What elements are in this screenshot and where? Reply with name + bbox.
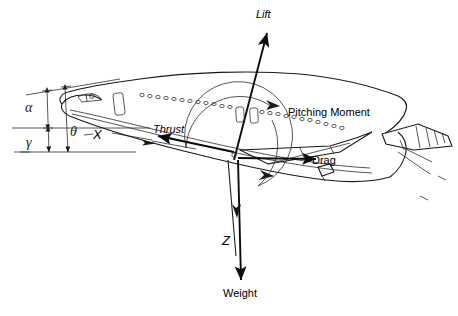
- fin-trailing-line-2: [398, 152, 430, 174]
- gamma-upper-arrowhead: [46, 126, 51, 132]
- x-axis-line: [112, 133, 152, 140]
- aft-door: [236, 107, 245, 122]
- lift-label: Lift: [256, 8, 272, 20]
- angle-dimension-lines: [42, 84, 71, 153]
- horizontal-stabilizer: [382, 124, 452, 200]
- drag-label: Drag: [312, 154, 336, 166]
- engine-nacelle: [318, 164, 334, 181]
- aft-door-2: [250, 108, 259, 123]
- thrust-label: Thrust: [153, 123, 185, 135]
- weight-label: Weight: [223, 287, 257, 299]
- alpha-upper-arrowhead: [45, 87, 50, 93]
- drag-vector: [238, 158, 316, 159]
- stabilizer-rib-2: [426, 128, 430, 147]
- body-axis-reference-line: [26, 79, 120, 95]
- diagram-canvas: α γ θ X: [0, 0, 458, 316]
- tail-dash-1: [438, 176, 446, 180]
- weight-arrow: [238, 160, 241, 280]
- tail-dash-2: [420, 196, 428, 200]
- aircraft-fuselage: [60, 72, 407, 182]
- reference-lines: [12, 79, 150, 152]
- alpha-gamma-dimension-line: [47, 90, 49, 152]
- fuselage-aft-belly: [390, 132, 406, 177]
- wing-surface-line: [268, 143, 350, 164]
- x-axis-left-dash: [84, 134, 93, 135]
- moment-arrowhead-top: [266, 100, 280, 110]
- theta-dimension-line: [65, 87, 68, 152]
- weight-vector: [238, 160, 241, 280]
- gamma-angle-label: γ: [26, 135, 32, 150]
- stabilizer-root-line: [400, 140, 404, 150]
- stabilizer-rib-1: [416, 126, 420, 148]
- fuselage-tailcone: [386, 96, 407, 133]
- theta-angle-label: θ: [70, 124, 77, 139]
- alpha-angle-label: α: [25, 100, 33, 115]
- nose-cap: [62, 95, 102, 104]
- pitching-moment-label: Pitching Moment: [288, 106, 370, 118]
- fuselage-top-line: [60, 72, 398, 104]
- x-axis-label: X: [92, 127, 103, 142]
- forward-door: [113, 92, 126, 115]
- z-axis-label: Z: [221, 233, 231, 248]
- theta-top-tick: [61, 86, 71, 87]
- aircraft-force-diagram: α γ θ X: [0, 0, 458, 316]
- drag-arrow: [238, 158, 316, 159]
